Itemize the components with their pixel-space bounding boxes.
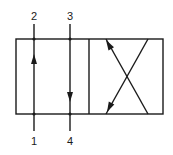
port-label-3: 3 — [67, 10, 73, 22]
arrow-down-left-icon — [107, 102, 114, 113]
arrow-up-left-icon — [106, 40, 114, 51]
port-label-1: 1 — [31, 135, 37, 147]
valve-symbol-diagram: 2 3 1 4 — [0, 0, 173, 155]
port-label-4: 4 — [67, 135, 73, 147]
arrow-down-icon — [67, 92, 73, 102]
arrow-up-icon — [31, 54, 37, 64]
port-label-2: 2 — [31, 10, 37, 22]
